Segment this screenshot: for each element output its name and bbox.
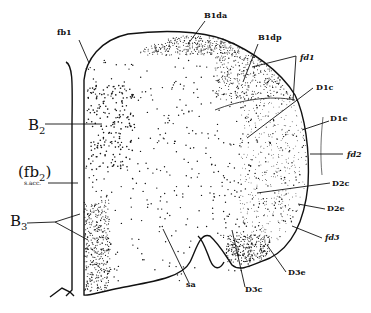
label-fd1: fd1	[299, 52, 315, 62]
label-D3e: D3e	[288, 267, 306, 277]
label-D1c: D1c	[316, 82, 334, 92]
label-D3c: D3c	[245, 284, 263, 294]
left-membrane	[66, 62, 72, 296]
leader-D2c	[257, 183, 330, 193]
label-sa: sa	[186, 279, 196, 289]
label-fb1: fb1	[57, 27, 72, 37]
leader-D3c	[232, 230, 245, 287]
leader-D2e	[298, 204, 325, 209]
leader-fb1	[79, 40, 89, 63]
label-B2: B2	[28, 116, 45, 136]
label-fd3: fd3	[324, 232, 340, 242]
base-line	[50, 288, 74, 297]
label-D1e: D1e	[330, 113, 348, 123]
leader-fd3	[292, 226, 322, 238]
label-B3: B3	[10, 212, 27, 232]
label-B1dp: B1dp	[258, 32, 282, 42]
label-D2c: D2c	[332, 178, 350, 188]
label-fd2: fd2	[346, 149, 362, 159]
stipple-dots	[84, 36, 308, 292]
label-sacc: s.acc.	[24, 179, 41, 186]
leader-lines	[27, 21, 343, 287]
fd2-curve	[321, 117, 323, 175]
figure: fb1B1daB1dpfd1D1cD1efd2B2(fb2)s.acc.B3D2…	[0, 0, 371, 313]
diagram-canvas: fb1B1daB1dpfd1D1cD1efd2B2(fb2)s.acc.B3D2…	[0, 0, 371, 313]
leader-D1e	[302, 121, 329, 130]
label-B1da: B1da	[204, 10, 227, 20]
notch	[198, 236, 224, 268]
leader-sa	[163, 229, 189, 283]
d1-boundary	[215, 98, 295, 110]
label-D2e: D2e	[327, 203, 345, 213]
